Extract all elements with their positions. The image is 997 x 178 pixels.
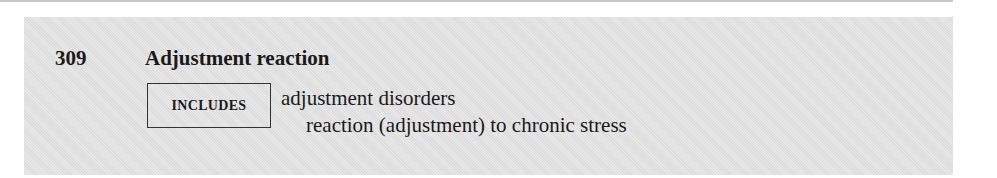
entry-code: 309 bbox=[55, 46, 87, 71]
code-entry-box: 309 Adjustment reaction INCLUDES adjustm… bbox=[24, 17, 953, 175]
top-rule bbox=[0, 0, 953, 2]
entry-title: Adjustment reaction bbox=[145, 46, 330, 71]
includes-item: adjustment disorders bbox=[281, 86, 455, 111]
includes-item: reaction (adjustment) to chronic stress bbox=[306, 113, 627, 138]
includes-label: INCLUDES bbox=[172, 98, 247, 114]
includes-tag: INCLUDES bbox=[147, 83, 271, 128]
